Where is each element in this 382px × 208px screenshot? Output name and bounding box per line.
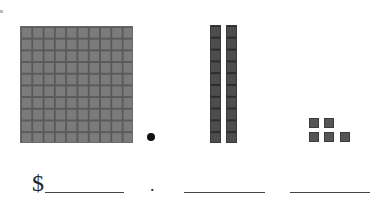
unit-cube-5 xyxy=(340,132,350,142)
tens-rod-2 xyxy=(226,25,237,143)
unit-cube-4 xyxy=(324,132,334,142)
answer-blank-dollars[interactable] xyxy=(45,192,124,193)
hundreds-flat-block xyxy=(20,26,133,143)
dollar-sign: $ xyxy=(32,170,44,196)
answer-decimal-point: . xyxy=(150,176,155,194)
unit-cube-3 xyxy=(309,132,319,142)
answer-blank-tenths[interactable] xyxy=(184,192,265,193)
tens-rod-1 xyxy=(210,25,221,143)
unit-cube-1 xyxy=(309,118,319,128)
scan-artifact xyxy=(0,10,3,13)
unit-cube-2 xyxy=(324,118,334,128)
decimal-point-dot xyxy=(147,133,155,141)
answer-blank-hundredths[interactable] xyxy=(290,192,370,193)
